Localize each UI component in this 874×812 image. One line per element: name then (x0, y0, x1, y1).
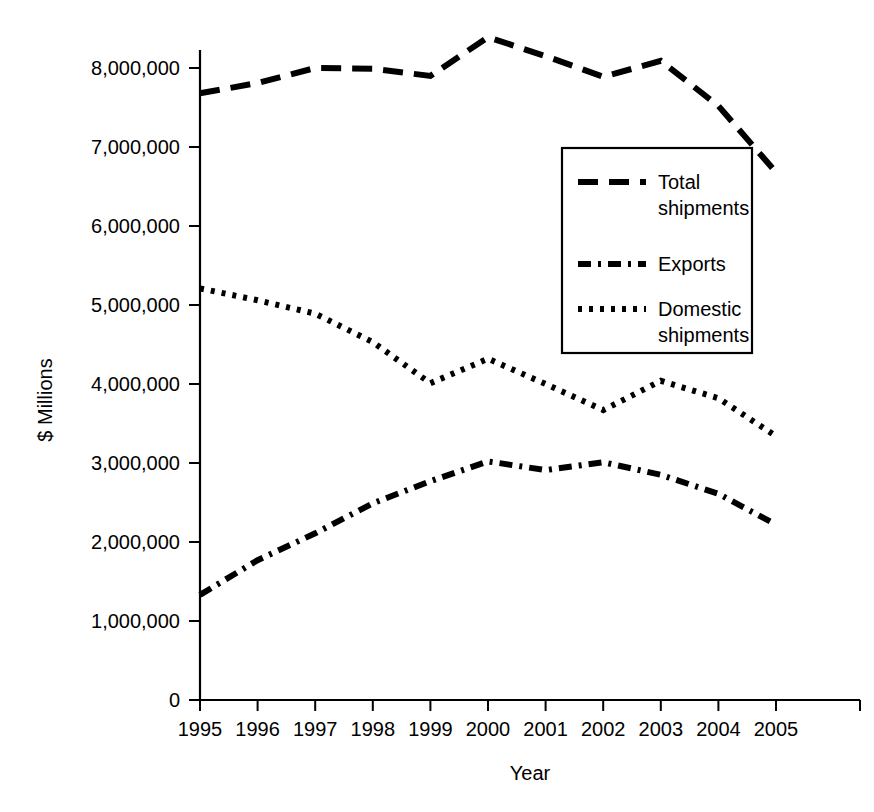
y-tick-label: 3,000,000 (91, 452, 180, 474)
x-tick-label: 2000 (466, 718, 511, 740)
y-tick-label: 0 (169, 689, 180, 711)
y-tick-label: 2,000,000 (91, 531, 180, 553)
x-axis: 1995199619971998199920002001200220032004… (178, 700, 860, 784)
x-tick-label: 2005 (754, 718, 799, 740)
x-axis-tick-labels: 1995199619971998199920002001200220032004… (178, 718, 799, 740)
y-axis-ticks (189, 68, 200, 700)
x-axis-title: Year (510, 762, 551, 784)
y-axis-tick-labels: 01,000,0002,000,0003,000,0004,000,0005,0… (91, 57, 180, 711)
y-axis-title: $ Millions (34, 358, 56, 441)
chart-legend: TotalshipmentsExportsDomesticshipments (562, 148, 752, 353)
x-tick-label: 2002 (581, 718, 626, 740)
x-tick-label: 1996 (235, 718, 280, 740)
x-tick-label: 1999 (408, 718, 453, 740)
y-tick-label: 7,000,000 (91, 136, 180, 158)
x-tick-label: 1995 (178, 718, 223, 740)
line-chart: 01,000,0002,000,0003,000,0004,000,0005,0… (0, 0, 874, 812)
y-tick-label: 6,000,000 (91, 215, 180, 237)
legend-label-2-line2: shipments (658, 324, 749, 346)
y-tick-label: 5,000,000 (91, 294, 180, 316)
x-tick-label: 1997 (293, 718, 338, 740)
legend-label-1: Exports (658, 253, 726, 275)
x-axis-ticks (200, 700, 860, 711)
x-tick-label: 2001 (523, 718, 568, 740)
chart-canvas: 01,000,0002,000,0003,000,0004,000,0005,0… (0, 0, 874, 812)
legend-label-0-line2: shipments (658, 197, 749, 219)
legend-border (562, 148, 752, 353)
y-tick-label: 1,000,000 (91, 610, 180, 632)
y-tick-label: 4,000,000 (91, 373, 180, 395)
x-tick-label: 1998 (351, 718, 396, 740)
x-tick-label: 2003 (639, 718, 684, 740)
x-tick-label: 2004 (696, 718, 741, 740)
series-line-1 (200, 461, 776, 595)
y-tick-label: 8,000,000 (91, 57, 180, 79)
y-axis: 01,000,0002,000,0003,000,0004,000,0005,0… (34, 50, 200, 711)
legend-label-0: Total (658, 171, 700, 193)
legend-label-2: Domestic (658, 298, 741, 320)
